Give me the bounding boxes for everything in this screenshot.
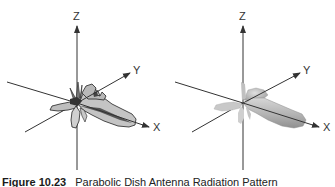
figure-caption-text: Parabolic Dish Antenna Radiation Pattern	[75, 176, 277, 187]
radiation-pattern-figure: Z Y X Z Y X	[0, 0, 335, 187]
axis-label-y: Y	[133, 64, 141, 76]
back-lobe-left	[214, 102, 242, 111]
axis-label-x: X	[323, 121, 331, 133]
axis-x-back	[7, 82, 77, 103]
spike-lobe	[241, 82, 246, 100]
panel-shaded-pattern: Z Y X	[175, 10, 331, 170]
axis-label-z: Z	[239, 10, 246, 22]
axis-label-x: X	[153, 121, 161, 133]
figure-caption: Figure 10.23 Parabolic Dish Antenna Radi…	[2, 176, 335, 187]
axis-y	[243, 73, 300, 103]
axis-label-z: Z	[73, 10, 80, 22]
axis-label-y: Y	[303, 64, 311, 76]
figure-number: Figure 10.23	[2, 176, 66, 187]
axis-x-back	[175, 82, 243, 103]
panel-outline-pattern: Z Y X	[7, 10, 161, 170]
